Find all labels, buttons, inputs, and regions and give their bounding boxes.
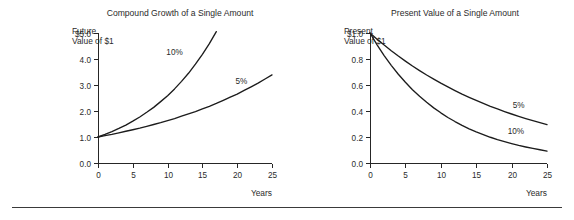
y-tick-label: $5.0 [75, 30, 91, 39]
figure-container: Compound Growth of a Single AmountFuture… [0, 0, 574, 220]
chart-title: Compound Growth of a Single Amount [107, 8, 254, 18]
charts-svg: Compound Growth of a Single AmountFuture… [0, 0, 574, 220]
x-tick-label: 15 [472, 171, 482, 180]
x-axis-label: Years [251, 188, 272, 198]
x-tick-label: 10 [164, 171, 174, 180]
y-tick-label: $1.0 [347, 30, 363, 39]
x-tick-label: 15 [198, 171, 208, 180]
data-curve-10pct [98, 32, 216, 137]
series-label-5pct: 5% [235, 77, 247, 86]
y-tick-label: 4.0 [80, 56, 92, 65]
x-tick-label: 5 [403, 171, 408, 180]
y-tick-label: 0.2 [352, 134, 364, 143]
x-tick-label: 20 [233, 171, 243, 180]
x-tick-label: 0 [96, 171, 101, 180]
x-tick-label: 25 [543, 171, 553, 180]
y-tick-label: 0.4 [352, 108, 364, 117]
x-axis-label: Years [526, 188, 547, 198]
y-tick-label: 0.8 [352, 56, 364, 65]
y-tick-label: 3.0 [80, 82, 92, 91]
x-tick-label: 25 [268, 171, 278, 180]
x-tick-label: 10 [437, 171, 447, 180]
y-tick-label: 2.0 [80, 108, 92, 117]
series-label-10pct: 10% [508, 127, 524, 136]
chart-title: Present Value of a Single Amount [391, 8, 519, 18]
chart-compound-growth: Compound Growth of a Single AmountFuture… [72, 8, 277, 198]
y-tick-label: 1.0 [80, 134, 92, 143]
x-tick-label: 5 [131, 171, 136, 180]
axis-spines [99, 33, 273, 164]
x-tick-label: 20 [508, 171, 518, 180]
series-label-10pct: 10% [166, 48, 182, 57]
y-tick-label: 0.0 [352, 160, 364, 169]
x-tick-label: 0 [368, 171, 373, 180]
chart-present-value: Present Value of a Single AmountPresentV… [344, 8, 552, 198]
y-tick-label: 0.6 [352, 82, 364, 91]
series-label-5pct: 5% [513, 101, 525, 110]
data-curve-5pct [370, 33, 547, 125]
axis-spines [371, 33, 548, 164]
y-tick-label: 0.0 [80, 160, 92, 169]
